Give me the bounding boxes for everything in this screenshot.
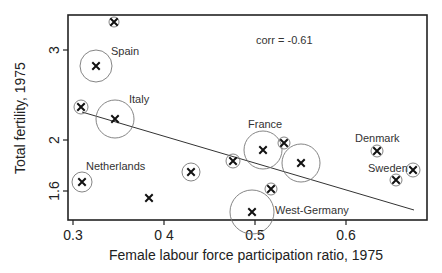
- x-tick-label: 0.6: [336, 227, 356, 243]
- label-france: France: [248, 118, 282, 130]
- y-tick-label: 3: [46, 46, 62, 54]
- label-sweden: Sweden: [368, 162, 408, 174]
- x-tick-label: 0.3: [63, 227, 83, 243]
- label-netherlands: Netherlands: [86, 160, 146, 172]
- x-tick-label: 0 4: [154, 227, 174, 243]
- correlation-annotation: corr = -0.61: [256, 34, 313, 46]
- label-west-germany: West-Germany: [275, 204, 349, 216]
- label-spain: Spain: [111, 45, 139, 57]
- y-tick-label: 2: [46, 136, 62, 144]
- label-denmark: Denmark: [355, 132, 400, 144]
- x-tick-label: 0.5: [245, 227, 265, 243]
- scatter-chart: 3 2 1.6 0.3 0 4 0.5 0.6 Female labour fo…: [0, 0, 442, 273]
- x-axis-title: Female labour force participation ratio,…: [109, 247, 383, 263]
- y-axis-title: Total fertility, 1975: [12, 62, 28, 174]
- y-tick-labels: 3 2 1.6: [46, 46, 62, 201]
- label-italy: Italy: [129, 93, 150, 105]
- x-tick-labels: 0.3 0 4 0.5 0.6: [63, 227, 356, 243]
- y-tick-label: 1.6: [46, 181, 62, 201]
